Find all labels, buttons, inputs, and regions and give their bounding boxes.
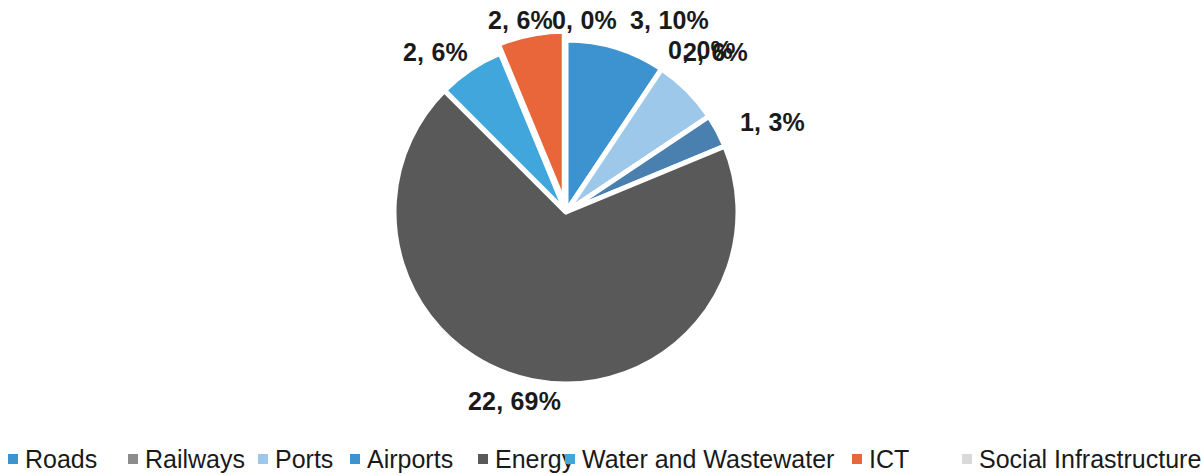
- pie-slices-group: [394, 31, 738, 384]
- pie-chart: 3, 10% 0, 0% 2, 6% 1, 3% 22, 69% 2, 6% 2…: [0, 0, 1160, 440]
- legend-item-railways[interactable]: Railways: [128, 447, 245, 472]
- legend-item-label: Roads: [25, 447, 97, 472]
- legend-item-label: Water and Wastewater: [582, 447, 834, 472]
- legend-item-label: Railways: [145, 447, 245, 472]
- legend-swatch-icon: [962, 454, 972, 464]
- slice-label-social: 0, 0%: [668, 38, 733, 63]
- legend-item-label: Social Infrastructure: [979, 447, 1201, 472]
- slice-label-water: 2, 6%: [403, 40, 468, 65]
- slice-label-roads: 3, 10%: [630, 8, 709, 33]
- slice-label-railways: 0, 0%: [552, 8, 617, 33]
- legend-item-roads[interactable]: Roads: [8, 447, 97, 472]
- legend-item-label: ICT: [869, 447, 909, 472]
- legend-swatch-icon: [128, 454, 138, 464]
- slice-label-ict: 2, 6%: [488, 8, 553, 33]
- slice-label-energy: 22, 69%: [468, 389, 561, 414]
- legend-item-social-infrastructure[interactable]: Social Infrastructure: [962, 447, 1201, 472]
- legend-swatch-icon: [8, 454, 18, 464]
- legend-swatch-icon: [565, 454, 575, 464]
- legend-item-label: Ports: [275, 447, 333, 472]
- legend-item-label: Energy: [495, 447, 574, 472]
- chart-legend: RoadsRailwaysPortsAirportsEnergyWater an…: [0, 443, 1160, 475]
- legend-swatch-icon: [478, 454, 488, 464]
- legend-item-water-and-wastewater[interactable]: Water and Wastewater: [565, 447, 834, 472]
- pie-chart-svg: [0, 0, 1160, 440]
- legend-swatch-icon: [350, 454, 360, 464]
- legend-item-airports[interactable]: Airports: [350, 447, 453, 472]
- legend-item-label: Airports: [367, 447, 453, 472]
- legend-item-ict[interactable]: ICT: [852, 447, 909, 472]
- legend-swatch-icon: [258, 454, 268, 464]
- legend-swatch-icon: [852, 454, 862, 464]
- slice-label-airports: 1, 3%: [740, 110, 805, 135]
- legend-item-ports[interactable]: Ports: [258, 447, 333, 472]
- legend-item-energy[interactable]: Energy: [478, 447, 574, 472]
